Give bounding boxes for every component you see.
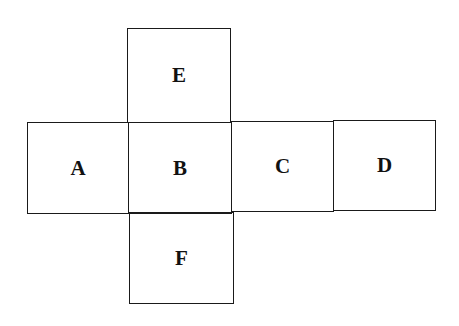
face-a: A — [27, 122, 129, 214]
face-c: C — [231, 121, 334, 212]
face-d-label: D — [377, 153, 392, 178]
face-f: F — [129, 212, 234, 304]
face-e: E — [127, 28, 231, 123]
face-b: B — [128, 122, 232, 214]
face-d: D — [333, 120, 436, 211]
face-e-label: E — [172, 63, 186, 88]
face-f-label: F — [175, 246, 188, 271]
face-b-label: B — [173, 156, 187, 181]
face-a-label: A — [70, 156, 85, 181]
face-c-label: C — [275, 154, 290, 179]
